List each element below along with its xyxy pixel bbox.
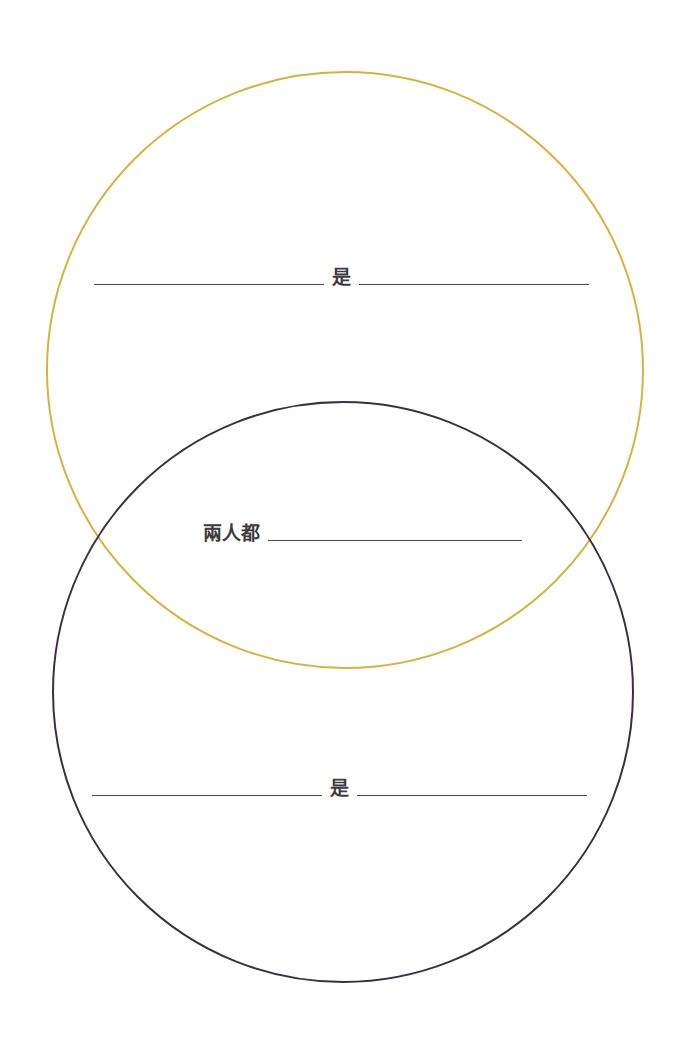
top-connector-label: 是 — [324, 266, 359, 288]
overlap-sentence: 兩人都 — [203, 522, 522, 544]
bottom-connector-label: 是 — [322, 777, 357, 799]
bottom-circle-sentence: 是 — [92, 777, 587, 799]
bottom-right-blank[interactable] — [357, 794, 587, 796]
top-left-blank[interactable] — [94, 283, 324, 285]
bottom-circle — [53, 402, 633, 982]
top-circle-sentence: 是 — [94, 266, 589, 288]
bottom-left-blank[interactable] — [92, 794, 322, 796]
overlap-blank[interactable] — [268, 539, 522, 541]
top-circle — [47, 72, 643, 668]
overlap-label: 兩人都 — [203, 522, 268, 544]
top-right-blank[interactable] — [359, 283, 589, 285]
